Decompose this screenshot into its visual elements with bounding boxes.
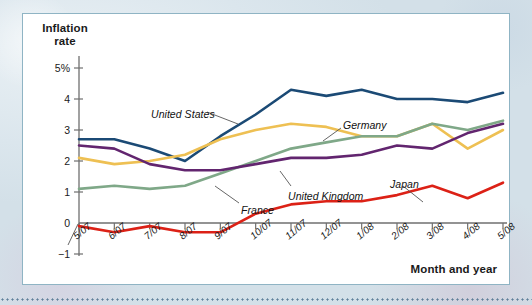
series-label-united-states: United States — [151, 108, 215, 120]
page-bottom-dotted-rule — [0, 298, 532, 301]
series-label-japan: Japan — [390, 178, 419, 190]
leader-line-france — [215, 186, 239, 203]
x-axis-title: Month and year — [411, 263, 497, 276]
y-tick-label: 5% — [23, 62, 70, 74]
y-tick-label: 3 — [23, 124, 70, 136]
y-tick-label: 1 — [23, 186, 70, 198]
line-chart-plot — [23, 14, 511, 286]
chart-panel: Inflation rate Month and year 5%43210−15… — [22, 13, 510, 285]
y-tick-label: 0 — [23, 217, 70, 229]
series-label-united-kingdom: United Kingdom — [288, 190, 363, 202]
series-label-germany: Germany — [343, 119, 387, 131]
leader-line-united-kingdom — [280, 171, 291, 186]
y-axis-title: Inflation rate — [31, 22, 99, 48]
series-line-france — [79, 121, 503, 189]
figure-page: Inflation rate Month and year 5%43210−15… — [0, 0, 532, 305]
y-tick-label: 4 — [23, 93, 70, 105]
y-tick-label: 2 — [23, 155, 70, 167]
series-label-france: France — [241, 204, 274, 216]
y-tick-label: −1 — [23, 248, 70, 260]
